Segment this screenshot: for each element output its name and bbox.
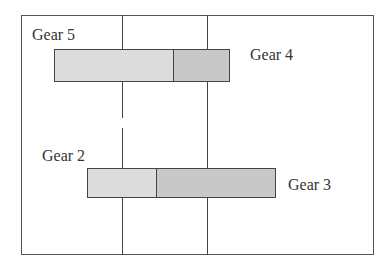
gear-3-segment <box>157 169 275 197</box>
bar-divider <box>156 169 157 197</box>
gear-bar-top <box>54 49 230 82</box>
gear-5-segment <box>55 50 173 81</box>
label-gear-3: Gear 3 <box>288 177 331 193</box>
label-gear-5: Gear 5 <box>32 27 75 43</box>
gear-2-segment <box>88 169 156 197</box>
gear-bar-bottom <box>87 168 276 198</box>
label-gear-4: Gear 4 <box>250 47 293 63</box>
bar-divider <box>173 50 174 81</box>
label-gear-2: Gear 2 <box>42 148 85 164</box>
gear-4-segment <box>174 50 229 81</box>
